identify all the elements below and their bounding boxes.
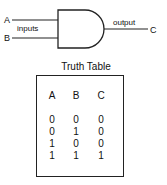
cell-c: 1 — [95, 150, 107, 162]
cell-a: 1 — [46, 138, 58, 150]
input-b-label: B — [4, 33, 10, 43]
header-a: A — [46, 90, 58, 102]
truth-table-header: A B C — [37, 90, 123, 102]
input-a-label: A — [4, 15, 10, 25]
cell-c: 0 — [95, 126, 107, 138]
cell-b: 0 — [70, 114, 82, 126]
cell-a: 0 — [46, 126, 58, 138]
cell-a: 0 — [46, 114, 58, 126]
cell-b: 1 — [70, 150, 82, 162]
header-b: B — [70, 90, 82, 102]
table-row: 1 1 1 — [37, 150, 123, 162]
output-c-label: C — [150, 25, 157, 35]
cell-b: 0 — [70, 138, 82, 150]
truth-table-title: Truth Table — [48, 61, 124, 73]
table-row: 1 0 0 — [37, 138, 123, 150]
cell-b: 1 — [70, 126, 82, 138]
inputs-caption: inputs — [17, 24, 38, 34]
header-c: C — [95, 90, 107, 102]
cell-a: 1 — [46, 150, 58, 162]
table-row: 0 1 0 — [37, 126, 123, 138]
cell-c: 0 — [95, 114, 107, 126]
cell-c: 0 — [95, 138, 107, 150]
table-row: 0 0 0 — [37, 114, 123, 126]
output-caption: output — [113, 18, 135, 28]
truth-table: A B C 0 0 0 0 1 0 1 0 0 1 1 1 — [36, 75, 124, 177]
and-gate-icon — [58, 10, 104, 48]
